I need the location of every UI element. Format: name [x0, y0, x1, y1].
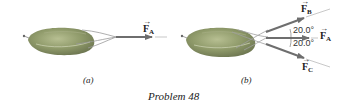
vector-arrow-icon: → [143, 17, 151, 26]
figure-canvas [0, 0, 350, 104]
angle-label-bottom: 20.0° [293, 38, 314, 48]
force-label-fc: →FC [302, 61, 313, 74]
object-body-a [23, 28, 95, 55]
force-subscript: C [308, 66, 313, 74]
panel-b-label: (b) [241, 75, 252, 85]
angle-arc-top [290, 29, 291, 38]
angle-arc-bottom [290, 38, 291, 47]
panel-a-label: (a) [83, 75, 94, 85]
force-label-fa-b: →FA [320, 30, 331, 43]
force-label-fb: →FB [301, 3, 312, 16]
figure-caption: Problem 48 [148, 90, 199, 102]
object-body-b [181, 28, 255, 57]
angle-label-top: 20.0° [293, 25, 314, 35]
force-label-fa-a: →FA [143, 23, 154, 36]
force-subscript: A [149, 28, 154, 36]
vector-arrow-icon: → [301, 0, 309, 6]
vector-arrow-icon: → [302, 55, 310, 64]
force-subscript: B [307, 8, 312, 16]
force-subscript: A [326, 35, 331, 43]
vector-arrow-icon: → [320, 24, 328, 33]
